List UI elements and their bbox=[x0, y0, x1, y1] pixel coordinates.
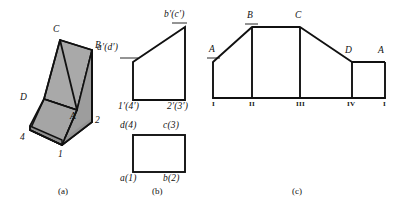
part-b-label-2-prime: 2′(3′) bbox=[167, 102, 188, 112]
caption-b: (b) bbox=[152, 186, 163, 196]
part-b-label-b: b(2) bbox=[163, 174, 180, 184]
part-c-edge-A-B bbox=[213, 27, 252, 62]
part-a-label-A: A bbox=[70, 112, 76, 122]
caption-a: (a) bbox=[58, 186, 68, 196]
part-a-label-C: C bbox=[53, 25, 60, 35]
part-c-panel-label-2: II bbox=[249, 101, 255, 108]
part-a-drawing bbox=[0, 0, 403, 212]
part-b-top-view-outline bbox=[133, 135, 185, 172]
part-c-label-D: D bbox=[345, 46, 352, 56]
technical-drawing-figure: C B D A 4 1 2 a′(d′) b′(c′) 1′(4′) 2′(3′… bbox=[0, 0, 403, 212]
part-b-label-a: a(1) bbox=[120, 174, 137, 184]
part-b-label-d: d(4) bbox=[120, 121, 137, 131]
part-a-label-2: 2 bbox=[95, 116, 100, 126]
part-b-label-a-prime: a′(d′) bbox=[97, 43, 118, 53]
part-a-label-D: D bbox=[20, 93, 27, 103]
part-c-label-C: C bbox=[295, 11, 302, 21]
part-c-panel-label-4: IV bbox=[347, 101, 355, 108]
part-c-label-A-right: A bbox=[378, 46, 384, 56]
caption-c: (c) bbox=[292, 186, 302, 196]
part-b-label-1-prime: 1′(4′) bbox=[118, 102, 139, 112]
part-c-label-B: B bbox=[247, 11, 253, 21]
part-c-panel-label-5: I bbox=[383, 101, 386, 108]
part-b-label-c: c(3) bbox=[163, 121, 179, 131]
part-a-label-1: 1 bbox=[58, 150, 63, 160]
part-c-panel-label-1: I bbox=[212, 101, 215, 108]
part-b-front-view-outline bbox=[133, 27, 185, 100]
part-b-label-b-prime: b′(c′) bbox=[164, 10, 185, 20]
part-c-label-A-left: A bbox=[209, 45, 215, 55]
part-c-panel-label-3: III bbox=[296, 101, 305, 108]
part-a-label-4: 4 bbox=[20, 133, 25, 143]
